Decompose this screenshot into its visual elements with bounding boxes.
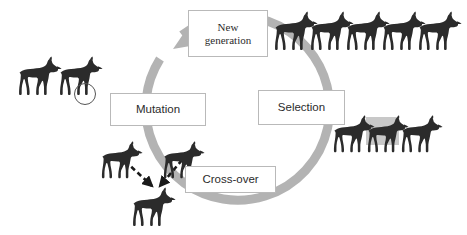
wolf-icon [16, 53, 62, 99]
wolf-icon [99, 138, 143, 182]
stage-label-text: Mutation [136, 103, 180, 116]
stage-label-text: Selection [278, 101, 325, 114]
wolf-icon [416, 8, 462, 54]
stage-label-text: Cross-over [202, 173, 258, 186]
stage-label-selection[interactable]: Selection [258, 90, 345, 125]
stage-label-new-generation[interactable]: New generation [188, 10, 268, 57]
stage-label-crossover[interactable]: Cross-over [185, 166, 276, 193]
circle-highlight-icon [74, 83, 96, 105]
diagram-canvas: New generation Mutation Selection Cross-… [0, 0, 467, 235]
wolf-icon [399, 112, 443, 156]
wolf-icon [130, 184, 176, 230]
stage-label-text: New generation [205, 21, 251, 46]
stage-label-mutation[interactable]: Mutation [110, 93, 206, 126]
